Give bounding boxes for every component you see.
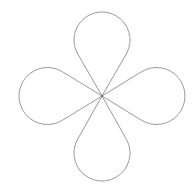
petal-left bbox=[19, 68, 102, 125]
center-point bbox=[101, 95, 103, 97]
petal-right bbox=[102, 68, 185, 125]
four-petal-curve bbox=[0, 0, 196, 192]
petal-bottom bbox=[74, 96, 130, 181]
figure-canvas: Four-petal loop curve bbox=[0, 0, 196, 192]
